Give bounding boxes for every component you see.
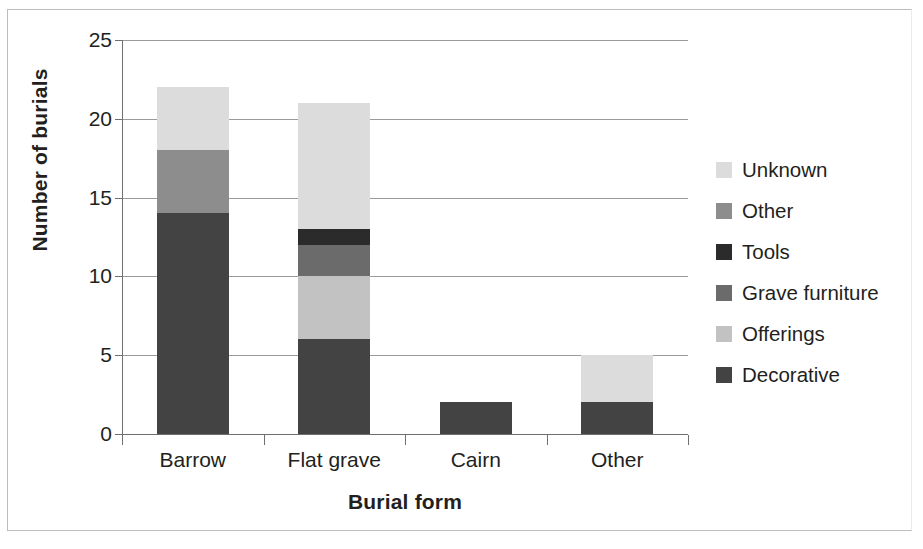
legend-label: Decorative bbox=[742, 364, 840, 386]
y-axis-tick-label: 0 bbox=[66, 423, 112, 444]
y-axis-title: Number of burials bbox=[28, 50, 52, 270]
x-axis-category-label: Flat grave bbox=[264, 448, 406, 472]
y-axis-tick-label: 25 bbox=[66, 29, 112, 50]
legend-item[interactable]: Other bbox=[716, 190, 921, 231]
y-axis-tick bbox=[115, 434, 123, 435]
x-axis-tick bbox=[405, 435, 406, 445]
bar-segment-grave-furniture bbox=[298, 245, 370, 277]
y-axis-tick bbox=[115, 355, 123, 356]
bar-other bbox=[581, 355, 653, 434]
chart-figure: Number of burials 2520151050 BarrowFlat … bbox=[0, 0, 923, 549]
legend-item[interactable]: Tools bbox=[716, 231, 921, 272]
y-axis-tick-labels: 2520151050 bbox=[52, 0, 112, 549]
legend-swatch-icon bbox=[716, 244, 732, 260]
legend-label: Other bbox=[742, 200, 793, 222]
x-axis-category-label: Other bbox=[547, 448, 689, 472]
bar-segment-decorative bbox=[157, 213, 229, 434]
y-axis-tick bbox=[115, 276, 123, 277]
legend-item[interactable]: Unknown bbox=[716, 149, 921, 190]
x-axis-category-label: Barrow bbox=[122, 448, 264, 472]
legend-swatch-icon bbox=[716, 162, 732, 178]
y-axis-tick bbox=[115, 198, 123, 199]
plot-area bbox=[122, 40, 688, 434]
x-axis-tick bbox=[688, 435, 689, 445]
x-axis-tick bbox=[122, 435, 123, 445]
legend-item[interactable]: Decorative bbox=[716, 354, 921, 395]
legend-label: Grave furniture bbox=[742, 282, 879, 304]
bar-segment-decorative bbox=[298, 339, 370, 434]
bar-segment-offerings bbox=[298, 276, 370, 339]
legend-label: Tools bbox=[742, 241, 790, 263]
bar-segment-decorative bbox=[440, 402, 512, 434]
y-axis-tick bbox=[115, 40, 123, 41]
y-axis-tick bbox=[115, 119, 123, 120]
legend-item[interactable]: Grave furniture bbox=[716, 272, 921, 313]
bar-segment-unknown bbox=[581, 355, 653, 402]
y-axis-tick-label: 15 bbox=[66, 187, 112, 208]
x-axis-tick bbox=[264, 435, 265, 445]
bar-barrow bbox=[157, 87, 229, 434]
y-axis-tick-label: 5 bbox=[66, 344, 112, 365]
legend-label: Offerings bbox=[742, 323, 825, 345]
bar-segment-unknown bbox=[157, 87, 229, 150]
x-axis-category-label: Cairn bbox=[405, 448, 547, 472]
bar-segment-tools bbox=[298, 229, 370, 245]
legend-swatch-icon bbox=[716, 326, 732, 342]
y-axis-tick-label: 10 bbox=[66, 265, 112, 286]
bar-segment-other bbox=[157, 150, 229, 213]
x-axis-tick bbox=[547, 435, 548, 445]
bar-cairn bbox=[440, 402, 512, 434]
legend-label: Unknown bbox=[742, 159, 827, 181]
legend: UnknownOtherToolsGrave furnitureOffering… bbox=[716, 149, 921, 395]
legend-swatch-icon bbox=[716, 285, 732, 301]
x-axis-title: Burial form bbox=[122, 490, 688, 514]
legend-swatch-icon bbox=[716, 367, 732, 383]
legend-item[interactable]: Offerings bbox=[716, 313, 921, 354]
bar-segment-unknown bbox=[298, 103, 370, 229]
legend-swatch-icon bbox=[716, 203, 732, 219]
bar-segment-decorative bbox=[581, 402, 653, 434]
bar-flat-grave bbox=[298, 103, 370, 434]
gridline bbox=[122, 40, 688, 41]
y-axis-tick-label: 20 bbox=[66, 108, 112, 129]
